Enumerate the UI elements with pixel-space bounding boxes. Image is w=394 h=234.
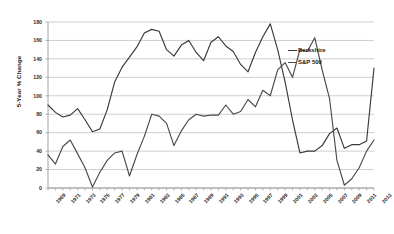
legend-swatch-sp500 <box>288 62 297 64</box>
legend-label-berkshire: Berkshire <box>298 47 326 53</box>
y-axis-tick-label: 20 <box>22 166 42 172</box>
series-line-berkshire <box>48 24 374 153</box>
y-axis-tick-label: 180 <box>22 19 42 25</box>
y-axis-tick-label: 40 <box>22 148 42 154</box>
y-axis-tick-label: 100 <box>22 93 42 99</box>
y-axis-tick-label: 160 <box>22 37 42 43</box>
y-axis-tick-label: 80 <box>22 111 42 117</box>
y-axis-tick-label: 0 <box>22 185 42 191</box>
legend-swatch-berkshire <box>288 50 297 52</box>
y-axis-tick-label: 140 <box>22 56 42 62</box>
y-axis-tick-label: 120 <box>22 74 42 80</box>
y-axis-tick-label: 60 <box>22 129 42 135</box>
series-line-sp500 <box>48 38 374 187</box>
legend-label-sp500: S&P 500 <box>298 59 322 65</box>
chart-container: 5-Year % Change 020406080100120140160180… <box>0 0 394 234</box>
